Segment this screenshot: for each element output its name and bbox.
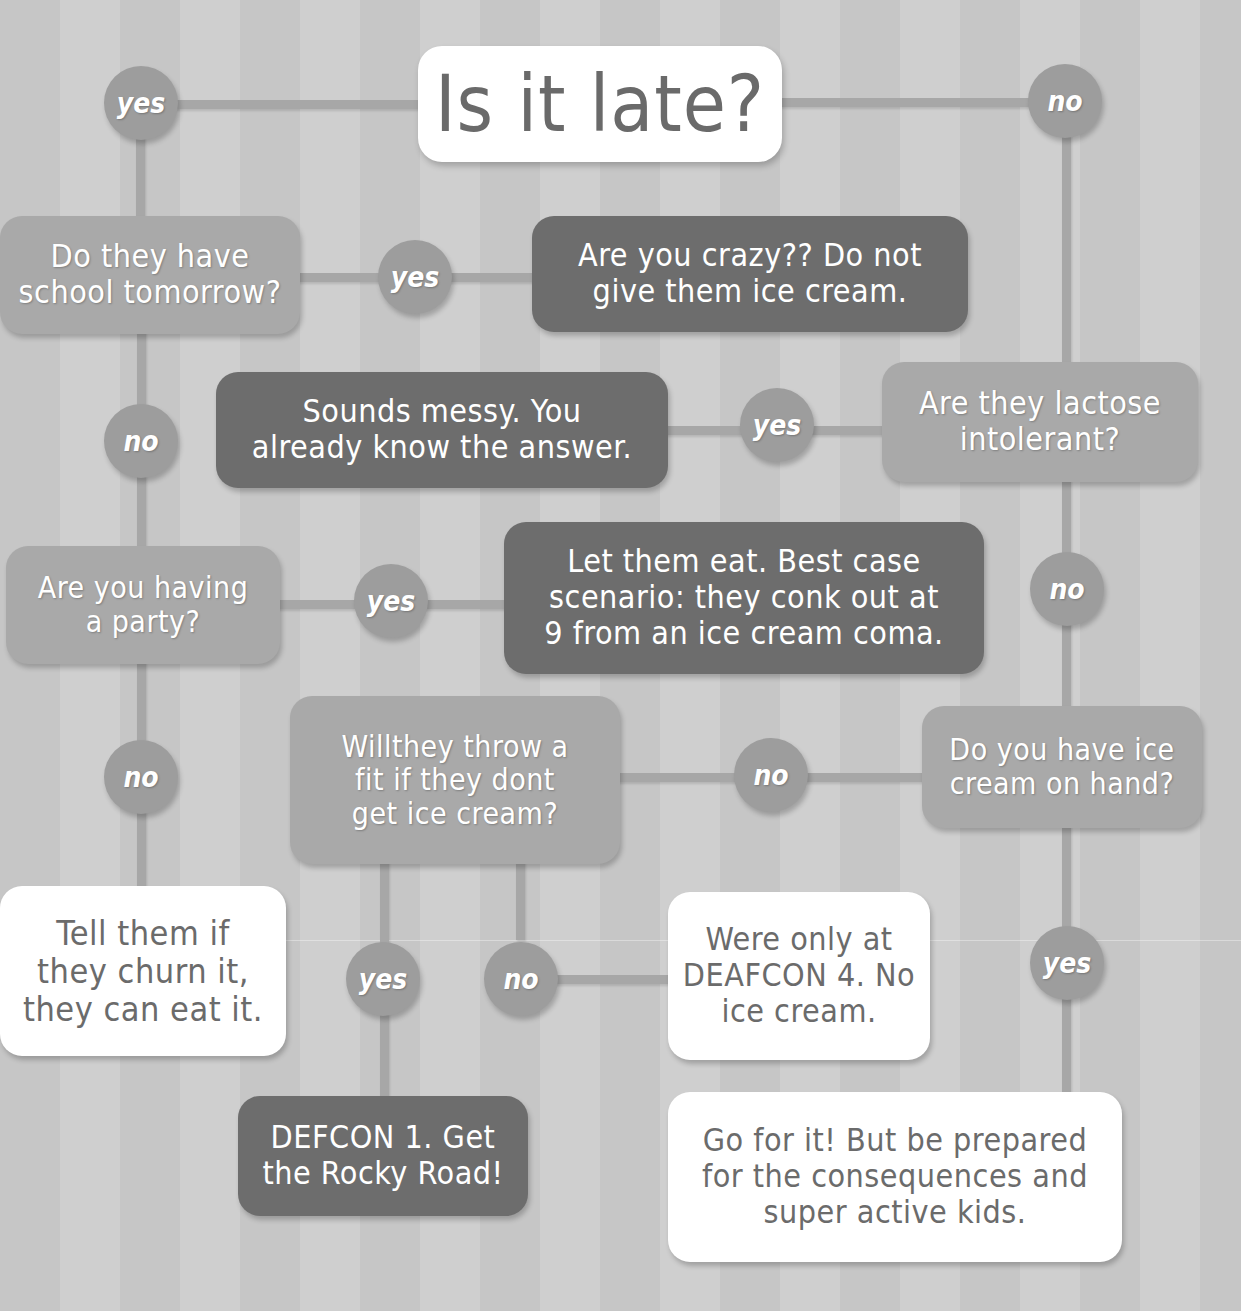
- connector-fit-no: [516, 860, 525, 940]
- answer-box-crazy: Are you crazy?? Do not give them ice cre…: [532, 216, 968, 332]
- connector-title-left: [140, 100, 420, 109]
- connector-title-right: [780, 98, 1070, 107]
- answer-box-defcon-1: DEFCON 1. Get the Rocky Road!: [238, 1096, 528, 1216]
- answer-no-circle: no: [1028, 64, 1102, 138]
- answer-box-churn-it: Tell them if they churn it, they can eat…: [0, 886, 286, 1056]
- answer-box-go-for-it: Go for it! But be prepared for the conse…: [668, 1092, 1122, 1262]
- question-throw-fit: Willthey throw a fit if they dont get ic…: [290, 696, 620, 864]
- question-ice-cream-on-hand: Do you have ice cream on hand?: [922, 706, 1202, 828]
- answer-no-circle: no: [484, 942, 558, 1016]
- answer-box-let-them-eat: Let them eat. Best case scenario: they c…: [504, 522, 984, 674]
- answer-no-circle: no: [734, 738, 808, 812]
- question-school-tomorrow: Do they have school tomorrow?: [0, 216, 300, 334]
- title-question-box: Is it late?: [418, 46, 782, 162]
- answer-no-circle: no: [104, 740, 178, 814]
- answer-no-circle: no: [104, 404, 178, 478]
- answer-yes-circle: yes: [1030, 926, 1104, 1000]
- answer-yes-circle: yes: [354, 564, 428, 638]
- answer-yes-circle: yes: [104, 66, 178, 140]
- question-lactose-intolerant: Are they lactose intolerant?: [882, 362, 1198, 482]
- question-having-party: Are you having a party?: [6, 546, 280, 664]
- answer-yes-circle: yes: [346, 942, 420, 1016]
- answer-box-deafcon-4: Were only at DEAFCON 4. No ice cream.: [668, 892, 930, 1060]
- page-title: Is it late?: [435, 59, 765, 149]
- answer-box-messy: Sounds messy. You already know the answe…: [216, 372, 668, 488]
- answer-yes-circle: yes: [740, 388, 814, 462]
- answer-no-circle: no: [1030, 552, 1104, 626]
- answer-yes-circle: yes: [378, 240, 452, 314]
